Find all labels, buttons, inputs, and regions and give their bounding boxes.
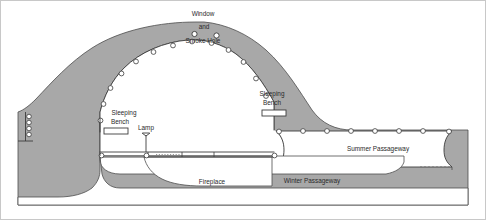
- roof-post-circle: [119, 71, 124, 76]
- summer-post-circle: [325, 129, 330, 134]
- ladder-rung-circle: [27, 114, 32, 119]
- summer-post-circle: [421, 129, 426, 134]
- label-smoke-hole: Smoke Hole: [186, 37, 221, 44]
- summer-post-circle: [397, 129, 402, 134]
- roof-post-circle: [101, 102, 106, 107]
- summer-post-circle: [373, 129, 378, 134]
- summer-post-circle: [301, 129, 306, 134]
- roof-post-circle: [134, 59, 139, 64]
- ladder-rung-circle: [27, 126, 32, 131]
- summer-post-circle: [277, 129, 282, 134]
- cross-section-drawing: Window and Smoke Hole Sleeping Bench Lam…: [0, 0, 486, 220]
- floor-post-circle: [144, 153, 149, 158]
- label-window: Window: [192, 10, 215, 17]
- floor-post-circle: [272, 153, 277, 158]
- label-winter-passageway: Winter Passageway: [284, 177, 341, 185]
- roof-post-circle: [241, 60, 246, 65]
- roof-post-circle: [226, 48, 231, 53]
- roof-post-circle: [98, 118, 103, 123]
- ladder-rung-circle: [27, 132, 32, 137]
- sod-house-cross-section-figure: Window and Smoke Hole Sleeping Bench Lam…: [0, 0, 486, 220]
- label-fireplace: Fireplace: [199, 178, 226, 186]
- label-and: and: [199, 23, 210, 30]
- roof-post-circle: [254, 76, 259, 81]
- summer-post-circle: [447, 129, 452, 134]
- label-sleeping-bench-left-line2: Bench: [111, 118, 130, 125]
- label-sleeping-bench-right-line2: Bench: [263, 99, 282, 106]
- sleeping-bench-left: [104, 128, 128, 134]
- sleeping-bench-right: [262, 110, 286, 116]
- label-summer-passageway: Summer Passageway: [347, 145, 410, 153]
- label-lamp: Lamp: [138, 124, 154, 132]
- summer-post-circle: [349, 129, 354, 134]
- roof-post-circle: [108, 86, 113, 91]
- roof-post-circle: [151, 50, 156, 55]
- label-sleeping-bench-left-line1: Sleeping: [112, 109, 137, 117]
- label-sleeping-bench-right-line1: Sleeping: [260, 90, 285, 98]
- roof-post-circle: [171, 43, 176, 48]
- ladder-rung-circle: [27, 120, 32, 125]
